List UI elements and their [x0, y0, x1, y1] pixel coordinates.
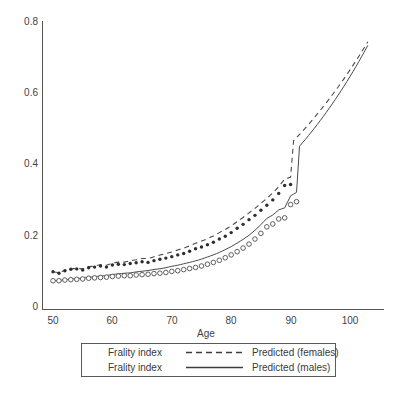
y-tick-label-0.2: 0.2 [24, 230, 38, 241]
data-point-females [218, 237, 221, 240]
data-point-males [205, 262, 210, 267]
data-point-females [164, 256, 167, 259]
data-point-males [92, 276, 97, 281]
data-point-females [194, 247, 197, 250]
data-point-females [105, 265, 108, 268]
data-point-males [229, 253, 234, 258]
data-point-males [253, 237, 258, 242]
data-point-males [98, 275, 103, 280]
frailty-index-chart: 0.8 0.6 0.4 0.2 0 50 60 70 80 90 100 Age… [0, 0, 399, 400]
data-point-males [223, 255, 228, 260]
data-point-males [63, 278, 68, 283]
data-point-females [51, 270, 54, 273]
data-point-females [224, 234, 227, 237]
data-point-females [176, 253, 179, 256]
data-point-females [265, 204, 268, 207]
data-point-males [175, 268, 180, 273]
data-point-females [182, 252, 185, 255]
y-tick-label-0.6: 0.6 [24, 87, 38, 98]
data-point-females [140, 260, 143, 263]
data-point-males [282, 216, 287, 221]
x-tick-labels-group: 50 60 70 80 90 100 [47, 315, 358, 326]
data-point-males [57, 278, 62, 283]
data-point-males [164, 270, 169, 275]
legend-row-0-predicted-label: Predicted (females) [252, 347, 339, 358]
data-point-females [247, 218, 250, 221]
x-tick-label-80: 80 [225, 315, 237, 326]
y-tick-label-0: 0 [32, 301, 38, 312]
data-point-females [57, 272, 60, 275]
data-point-females [200, 245, 203, 248]
data-point-females [170, 255, 173, 258]
data-point-females [75, 267, 78, 270]
data-point-males [110, 274, 115, 279]
data-point-males [116, 274, 121, 279]
data-point-females [129, 262, 132, 265]
y-tick-label-0.4: 0.4 [24, 158, 38, 169]
x-tick-label-50: 50 [47, 315, 59, 326]
data-point-females [235, 227, 238, 230]
legend-row-1-series-label: Frality index [108, 362, 162, 373]
data-point-males [276, 217, 281, 222]
data-point-females [152, 259, 155, 262]
data-point-females [271, 198, 274, 201]
x-tick-label-70: 70 [166, 315, 178, 326]
legend-row-0-series-label: Frality index [108, 347, 162, 358]
data-point-females [134, 261, 137, 264]
data-point-males [265, 225, 270, 230]
data-point-females [289, 183, 292, 186]
data-point-females [123, 263, 126, 266]
data-point-males [51, 278, 56, 283]
data-point-males [69, 277, 74, 282]
data-point-males [170, 269, 175, 274]
data-point-males [270, 222, 275, 227]
data-point-females [81, 268, 84, 271]
y-tick-label-0.8: 0.8 [24, 16, 38, 27]
data-point-males [134, 273, 139, 278]
data-point-females [63, 269, 66, 272]
data-point-females [111, 263, 114, 266]
x-tick-label-100: 100 [342, 315, 359, 326]
data-point-females [93, 265, 96, 268]
data-point-females [283, 184, 286, 187]
data-point-females [241, 223, 244, 226]
data-point-males [217, 258, 222, 263]
data-point-males [259, 231, 264, 236]
data-point-males [146, 272, 151, 277]
data-point-males [158, 271, 163, 276]
x-tick-label-60: 60 [106, 315, 118, 326]
frailty-index-males-markers [51, 199, 299, 283]
data-point-males [80, 277, 85, 282]
data-point-females [253, 214, 256, 217]
data-point-females [259, 209, 262, 212]
data-point-males [187, 266, 192, 271]
data-point-males [86, 276, 91, 281]
data-point-males [247, 242, 252, 247]
data-point-males [241, 246, 246, 251]
data-point-males [294, 199, 299, 204]
data-point-males [193, 265, 198, 270]
x-tick-label-90: 90 [285, 315, 297, 326]
data-point-females [277, 192, 280, 195]
data-point-females [99, 264, 102, 267]
y-tick-labels-group: 0.8 0.6 0.4 0.2 0 [24, 16, 38, 312]
data-point-males [288, 202, 293, 207]
data-point-females [230, 231, 233, 234]
data-point-females [69, 268, 72, 271]
data-point-males [235, 249, 240, 254]
figure-container: 0.8 0.6 0.4 0.2 0 50 60 70 80 90 100 Age… [0, 0, 399, 400]
data-point-females [158, 257, 161, 260]
data-point-females [206, 243, 209, 246]
data-point-males [152, 271, 157, 276]
data-point-males [199, 264, 204, 269]
data-point-females [117, 263, 120, 266]
x-axis-title: Age [197, 328, 215, 339]
data-point-females [188, 250, 191, 253]
data-point-males [74, 277, 79, 282]
data-point-females [87, 266, 90, 269]
data-point-females [146, 261, 149, 264]
data-point-males [140, 272, 145, 277]
data-point-males [104, 275, 109, 280]
chart-legend: Frality index Predicted (females) Fralit… [82, 344, 339, 377]
predicted-females-curve [53, 42, 368, 273]
